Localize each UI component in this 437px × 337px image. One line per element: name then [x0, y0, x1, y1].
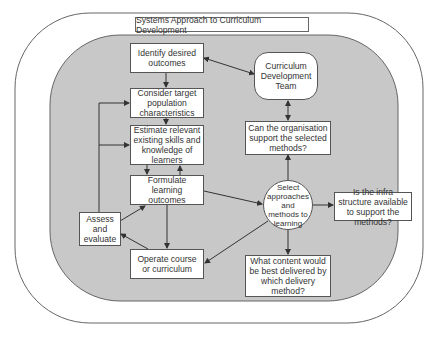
node-infra-structure: Is the infra structure available to supp… [334, 192, 412, 221]
node-assess-evaluate: Assess and evaluate [79, 212, 121, 246]
node-select-approaches: Select approaches and methods to learnin… [263, 180, 313, 230]
node-organisation-support: Can the organisation support the selecte… [245, 121, 331, 155]
node-curriculum-team: Curriculum Development Team [254, 52, 318, 100]
node-identify-outcomes: Identify desired outcomes [130, 43, 204, 73]
diagram-canvas [0, 0, 437, 337]
node-estimate-skills: Estimate relevant existing skills and kn… [130, 125, 204, 165]
node-operate-course: Operate course or curriculum [130, 249, 204, 279]
diagram-title: Systems Approach to Curriculum Developme… [135, 17, 309, 32]
node-consider-population: Consider target population characteristi… [130, 88, 204, 118]
node-formulate-outcomes: Formulate learning outcomes [130, 175, 204, 205]
inner-region [50, 35, 398, 301]
node-content-delivery: What content would be best delivered by … [245, 255, 331, 297]
